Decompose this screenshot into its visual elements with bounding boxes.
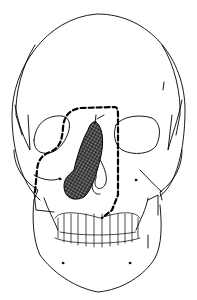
skull-drawing (0, 0, 197, 300)
mandible (33, 200, 161, 292)
zygoma-right (160, 150, 182, 200)
teeth (55, 213, 140, 247)
maxilla-right (140, 170, 162, 192)
mental-foramen-right (129, 262, 131, 264)
mental-foramen-left (62, 262, 64, 264)
mark (163, 82, 164, 90)
upper-jaw-right (148, 195, 158, 215)
maxilla-left (34, 175, 60, 180)
foramen-right (135, 179, 137, 181)
temporal-ridge-left (15, 105, 30, 150)
skull-illustration (0, 0, 197, 300)
mandible-ridge-right (136, 198, 148, 230)
foramen-left (59, 178, 61, 180)
temporal-ridge-right (168, 100, 182, 150)
upper-jaw (34, 192, 54, 212)
orbit-right (114, 116, 159, 153)
mandible-ridge-left (44, 198, 58, 230)
